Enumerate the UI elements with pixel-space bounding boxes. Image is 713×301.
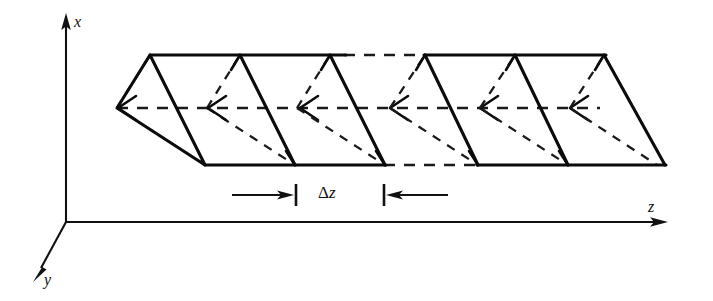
apex-spur	[595, 55, 604, 70]
left-end-cap	[117, 55, 205, 165]
axes-group	[33, 13, 668, 282]
apex-spurs	[231, 55, 604, 70]
delta-z-variable: z	[329, 183, 336, 202]
figure-canvas: x y z Δz	[0, 0, 713, 301]
y-axis-label: y	[44, 272, 51, 288]
y-axis-line	[41, 222, 66, 268]
delta-z-dimension	[232, 184, 448, 206]
z-axis-label: z	[648, 199, 654, 215]
z-axis	[66, 217, 668, 227]
x-axis-label: x	[74, 14, 81, 30]
apex-spur	[416, 55, 425, 70]
apex-spur	[321, 55, 330, 70]
apex-spur	[231, 55, 240, 70]
front-rib	[604, 55, 665, 165]
apex-spur	[506, 55, 515, 70]
x-axis	[61, 13, 71, 222]
delta-z-label: Δz	[318, 184, 336, 201]
diagram-svg	[0, 0, 713, 301]
delta-symbol: Δ	[318, 183, 329, 202]
bottom-spurs	[286, 151, 568, 165]
